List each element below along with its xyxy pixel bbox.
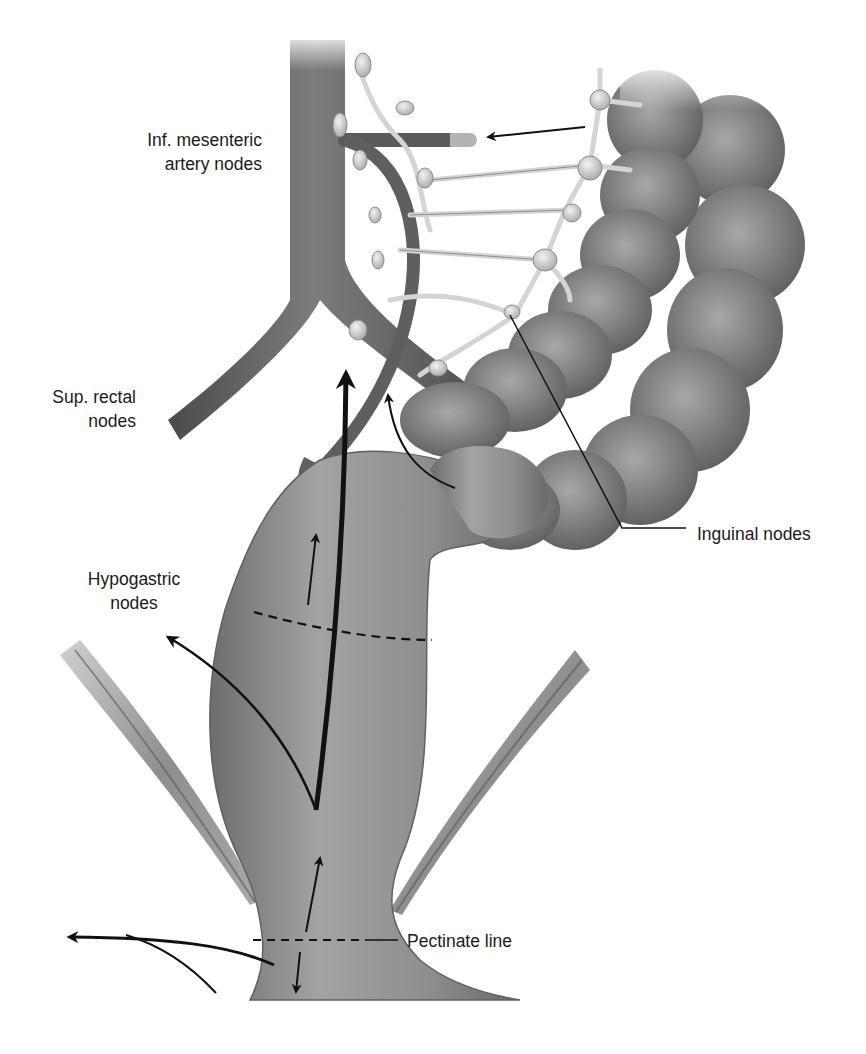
inguinal-branch-line: [126, 935, 216, 993]
aorta: [168, 30, 490, 440]
label-line: nodes: [78, 591, 190, 615]
label-inguinal-nodes: Inguinal nodes: [697, 522, 811, 546]
label-line: artery nodes: [100, 152, 262, 176]
label-sup-rectal-nodes: Sup. rectal nodes: [20, 385, 136, 433]
arrow-to-inguinal: [70, 937, 274, 965]
label-inf-mesenteric-artery-nodes: Inf. mesenteric artery nodes: [100, 128, 262, 176]
rectum: [210, 446, 548, 1000]
label-line: nodes: [20, 409, 136, 433]
label-line: Inf. mesenteric: [100, 128, 262, 152]
label-line: Sup. rectal: [20, 385, 136, 409]
label-line: Hypogastric: [78, 567, 190, 591]
label-line: Pectinate line: [407, 929, 512, 953]
label-pectinate-line: Pectinate line: [407, 929, 512, 953]
label-line: Inguinal nodes: [697, 522, 811, 546]
label-hypogastric-nodes: Hypogastric nodes: [78, 567, 190, 615]
arrow-to-inf-mesenteric: [488, 127, 585, 137]
